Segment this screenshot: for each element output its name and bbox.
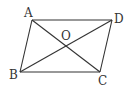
side-DC bbox=[100, 20, 112, 72]
label-D: D bbox=[114, 12, 124, 26]
label-B: B bbox=[9, 68, 18, 82]
label-O: O bbox=[61, 29, 71, 43]
parallelogram-diagram: A D B C O bbox=[0, 0, 131, 88]
label-C: C bbox=[98, 74, 107, 88]
side-AB bbox=[20, 20, 32, 72]
label-A: A bbox=[23, 6, 33, 20]
diagonal-BD bbox=[20, 20, 112, 72]
